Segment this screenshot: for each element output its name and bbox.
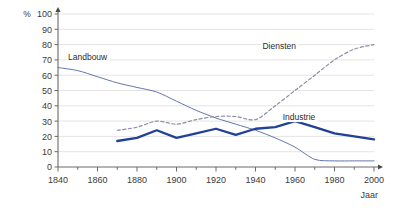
x-axis-tick-label: 2000 xyxy=(364,175,384,185)
series-line-diensten xyxy=(117,45,374,131)
y-axis-tick-label: 90 xyxy=(42,25,52,35)
x-axis-tick-label: 1980 xyxy=(324,175,344,185)
series-line-landbouw xyxy=(58,68,374,161)
y-axis-tick-label: 70 xyxy=(42,55,52,65)
x-axis-tick-label: 1840 xyxy=(48,175,68,185)
x-axis-tick-label: 1940 xyxy=(245,175,265,185)
x-axis-tick-label: 1860 xyxy=(87,175,107,185)
series-line-industrie xyxy=(117,121,374,141)
x-axis-tick-label: 1960 xyxy=(285,175,305,185)
y-axis-tick-label: 50 xyxy=(42,86,52,96)
series-label-diensten: Diensten xyxy=(262,41,296,51)
y-axis-tick-label: 10 xyxy=(42,147,52,157)
x-axis-tick-label: 1880 xyxy=(127,175,147,185)
y-axis-tick-label: 100 xyxy=(37,9,52,19)
y-axis-tick-label: 60 xyxy=(42,71,52,81)
y-axis-arrow-icon xyxy=(55,7,60,12)
x-axis-tick-label: 1920 xyxy=(206,175,226,185)
series-label-industrie: Industrie xyxy=(283,112,316,122)
x-axis-arrow-icon xyxy=(378,164,383,169)
y-axis-tick-label: 30 xyxy=(42,117,52,127)
chart-container: 0102030405060708090100%18401860188019001… xyxy=(0,0,396,208)
y-axis-unit-label: % xyxy=(23,9,31,19)
x-axis-tick-label: 1900 xyxy=(166,175,186,185)
y-axis-tick-label: 40 xyxy=(42,101,52,111)
y-axis-tick-label: 0 xyxy=(47,162,52,172)
series-label-landbouw: Landbouw xyxy=(68,52,108,62)
line-chart: 0102030405060708090100%18401860188019001… xyxy=(0,0,396,208)
y-axis-tick-label: 80 xyxy=(42,40,52,50)
x-axis-title: Jaar xyxy=(360,190,378,200)
y-axis-tick-label: 20 xyxy=(42,132,52,142)
